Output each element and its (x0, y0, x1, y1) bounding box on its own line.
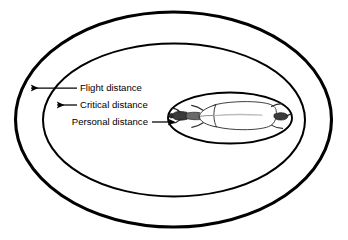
diagram-canvas: Flight distance Critical distance Person… (0, 0, 348, 240)
cow-tail (274, 113, 288, 120)
personal-distance-label: Personal distance (72, 116, 148, 127)
flight-distance-label: Flight distance (80, 82, 142, 93)
cow-muzzle (169, 113, 173, 118)
cow-head (172, 111, 187, 120)
flight-zone-diagram: Flight distance Critical distance Person… (0, 0, 348, 240)
canvas-background (0, 0, 348, 240)
critical-distance-label: Critical distance (80, 99, 148, 110)
